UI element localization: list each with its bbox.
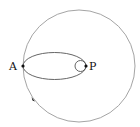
label-P: P: [89, 60, 97, 73]
outer-circular-orbit: [23, 10, 135, 122]
point-A: [21, 64, 24, 67]
label-A: A: [8, 60, 18, 73]
elliptical-transfer-orbit: [23, 53, 86, 80]
point-P: [84, 64, 87, 67]
orbit-diagram: A P: [0, 0, 140, 127]
inner-circular-orbit: [75, 61, 86, 72]
